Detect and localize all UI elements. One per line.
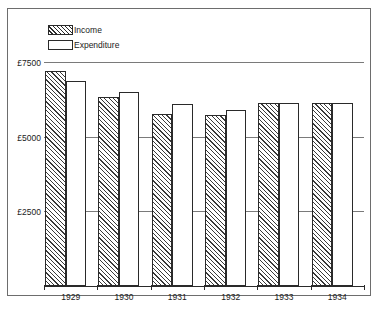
bar-income-1929 <box>45 71 66 286</box>
x-tick-1934 <box>311 285 312 290</box>
legend-item-income: Income <box>48 23 198 36</box>
bar-income-1934 <box>312 103 333 286</box>
bar-expenditure-1931 <box>172 104 193 286</box>
bar-expenditure-1930 <box>119 92 140 286</box>
gridline-7500: £7500 <box>44 62 364 63</box>
x-tick-1929 <box>44 285 45 290</box>
bar-expenditure-1932 <box>226 110 247 287</box>
bar-expenditure-1933 <box>279 103 300 286</box>
bar-income-1930 <box>98 97 119 286</box>
legend-item-expenditure: Expenditure <box>48 38 198 51</box>
x-tick-1933 <box>257 285 258 290</box>
legend-label-income: Income <box>74 25 102 35</box>
x-label-1934: 1934 <box>328 292 347 302</box>
bar-expenditure-1934 <box>332 103 353 286</box>
legend-label-expenditure: Expenditure <box>74 40 119 50</box>
x-tick-1932 <box>204 285 205 290</box>
chart-figure: Income Expenditure £7500 £5000 £2500 192… <box>7 8 371 296</box>
x-label-1932: 1932 <box>221 292 240 302</box>
x-tick-1930 <box>97 285 98 290</box>
bar-income-1932 <box>205 115 226 286</box>
y-tick-label-5000: £5000 <box>17 133 41 143</box>
y-tick-label-2500: £2500 <box>17 207 41 217</box>
x-label-1931: 1931 <box>168 292 187 302</box>
y-tick-label-7500: £7500 <box>17 58 41 68</box>
plain-swatch-icon <box>48 40 73 50</box>
bar-income-1931 <box>152 114 173 286</box>
chart-legend: Income Expenditure <box>48 23 198 53</box>
x-tick-end <box>364 285 365 290</box>
plot-area: £7500 £5000 £2500 1929193019311932193319… <box>44 62 364 286</box>
bar-expenditure-1929 <box>66 81 87 286</box>
x-label-1930: 1930 <box>115 292 134 302</box>
x-label-1933: 1933 <box>275 292 294 302</box>
x-label-1929: 1929 <box>61 292 80 302</box>
hatched-swatch-icon <box>48 25 73 35</box>
bar-income-1933 <box>258 103 279 286</box>
x-tick-1931 <box>151 285 152 290</box>
